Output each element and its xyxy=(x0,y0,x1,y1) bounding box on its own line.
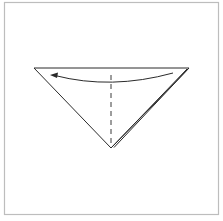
fold-arrow-curve xyxy=(55,73,173,82)
arrowhead-icon xyxy=(50,73,58,79)
origami-diagram xyxy=(0,0,223,221)
diagram-frame xyxy=(5,3,219,215)
front-right-edge xyxy=(112,69,187,147)
